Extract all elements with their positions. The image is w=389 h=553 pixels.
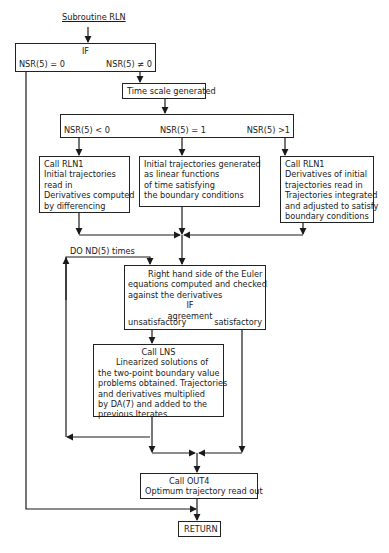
box-line: Right hand side of the Euler	[128, 269, 262, 279]
euler-check-box: Right hand side of the Euler equations c…	[124, 265, 266, 330]
loop-label: DO ND(5) times	[70, 246, 135, 256]
return-box: RETURN	[178, 521, 221, 537]
box-line: read in	[44, 180, 125, 190]
box-line: Call LNS	[98, 347, 219, 357]
box-line: Linearized solutions of	[98, 357, 219, 367]
if2-branch-negative: NSR(5) < 0	[64, 125, 110, 135]
call-rln1-differencing-box: Call RLN1 Initial trajectories read in D…	[39, 156, 130, 213]
call-rln1-integrated-box: Call RLN1 Derivatives of initial traject…	[280, 156, 374, 223]
if1-branch-not-zero: NSR(5) ≠ 0	[106, 59, 152, 69]
if-box-nsr-zero: IF NSR(5) = 0 NSR(5) ≠ 0	[15, 43, 156, 72]
euler-unsatisfactory: unsatisfactory	[128, 317, 186, 327]
if2-branch-one: NSR(5) = 1	[160, 125, 206, 135]
box-line: Initial trajectories	[44, 169, 125, 179]
euler-if-label: IF	[128, 300, 262, 310]
box-line: and adjusted to satisfy	[285, 201, 369, 211]
call-lns-box: Call LNS Linearized solutions of the two…	[93, 344, 224, 417]
box-line: Call RLN1	[44, 159, 125, 169]
box-line: the boundary conditions	[144, 190, 255, 200]
box-line: by differencing	[44, 201, 125, 211]
if-box-nsr-value: NSR(5) < 0 NSR(5) = 1 NSR(5) >1	[60, 114, 294, 138]
box-line: as linear functions	[144, 169, 255, 179]
box-line: Trajectories integrated	[285, 190, 369, 200]
box-line: the two-point boundary value	[98, 368, 219, 378]
euler-satisfactory: satisfactory	[214, 317, 262, 327]
return-label: RETURN	[184, 524, 218, 534]
box-line: equations computed and checked	[128, 279, 262, 289]
call-out4-box: Call OUT4 Optimum trajectory read out	[140, 473, 258, 499]
box-line: of time satisfying	[144, 180, 255, 190]
linear-trajectories-box: Initial trajectories generated as linear…	[139, 156, 260, 207]
box-line: boundary conditions	[285, 211, 369, 221]
subroutine-title: Subroutine RLN	[62, 12, 126, 22]
box-line: and derivatives multiplied	[98, 389, 219, 399]
time-scale-text: Time scale generated	[127, 86, 216, 96]
box-line: against the derivatives	[128, 290, 262, 300]
if1-branch-equal-zero: NSR(5) = 0	[19, 59, 65, 69]
box-line: Initial trajectories generated	[144, 159, 255, 169]
time-scale-box: Time scale generated	[122, 83, 206, 99]
box-line: Derivatives computed	[44, 190, 125, 200]
box-line: Optimum trajectory read out	[145, 486, 253, 496]
box-line: Call RLN1	[285, 159, 369, 169]
box-line: Derivatives of initial	[285, 169, 369, 179]
box-line: problems obtained. Trajectories	[98, 378, 219, 388]
box-line: Call OUT4	[145, 476, 253, 486]
box-line: trajectories read in	[285, 180, 369, 190]
if1-label: IF	[20, 46, 151, 56]
box-line: by DA(7) and added to the	[98, 399, 219, 409]
if2-branch-greater-one: NSR(5) >1	[247, 125, 290, 135]
box-line: previous Iterates	[98, 409, 219, 419]
